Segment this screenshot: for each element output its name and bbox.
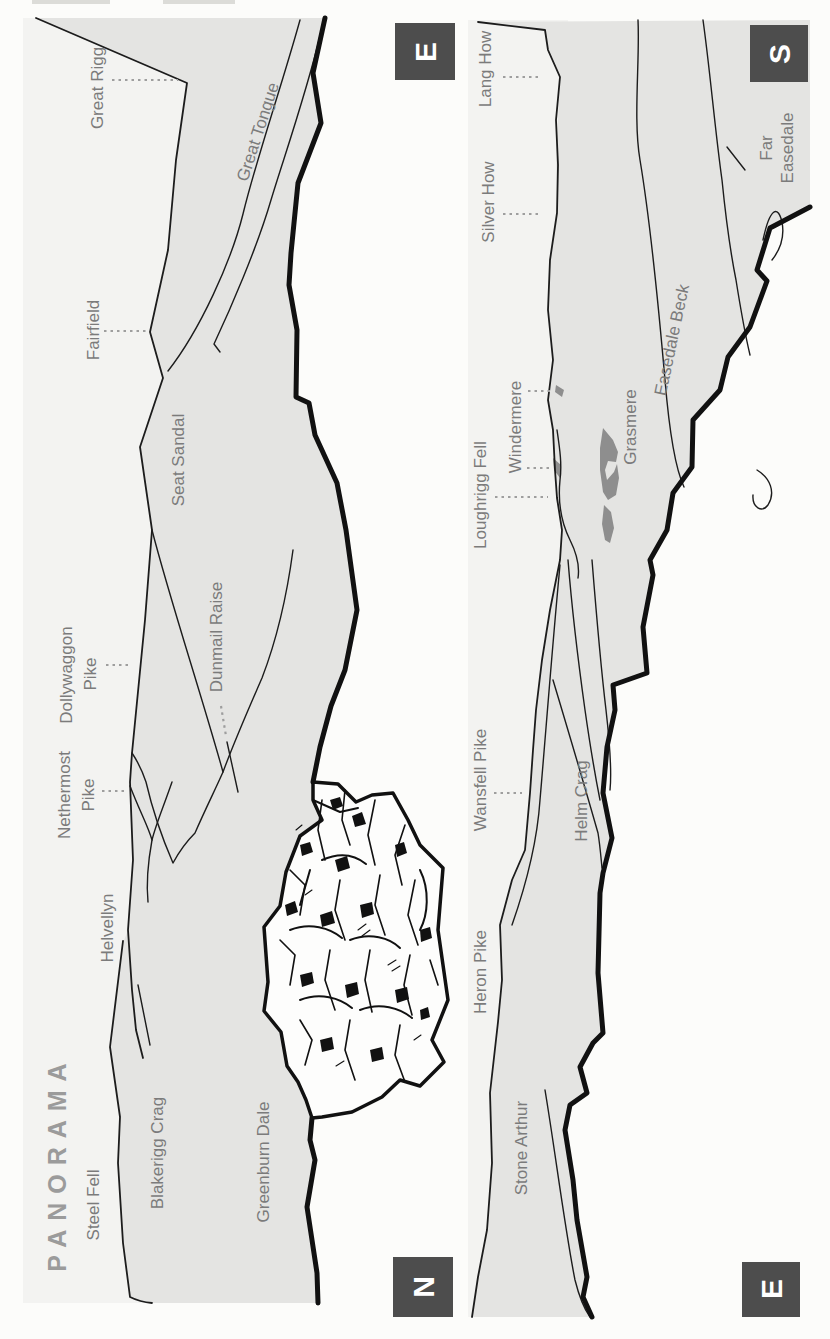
page-title: PANORAMA (43, 1054, 71, 1271)
label-heron-pike: Heron Pike (471, 930, 490, 1014)
compass-letter-e: E (409, 42, 442, 62)
label-loughrigg-fell: Loughrigg Fell (471, 441, 490, 549)
label-dollywaggon-pike-line2: Pike (81, 657, 100, 690)
page-top-crop-mark (32, 0, 110, 4)
label-blakerigg-crag: Blakerigg Crag (148, 1097, 167, 1209)
label-far-easedale-line2: Easedale (778, 113, 797, 184)
compass-badge-east: E (395, 23, 455, 80)
label-wansfell-pike: Wansfell Pike (471, 729, 490, 831)
panel-south-to-east: Lang How Silver How Far Easedale Winderm… (468, 20, 830, 1317)
panel-east-to-north: PANORAMA Great Rigg Great Tongue Fairfie… (23, 18, 455, 1317)
label-nethermost-pike-line1: Nethermost (55, 751, 74, 839)
label-nethermost-pike-line2: Pike (79, 778, 98, 811)
compass-badge-north: N (393, 1257, 453, 1317)
label-great-rigg: Great Rigg (88, 47, 107, 129)
label-helvellyn: Helvellyn (98, 894, 117, 963)
label-seat-sandal: Seat Sandal (169, 414, 188, 507)
page-top-crop-mark (163, 0, 235, 4)
label-steel-fell: Steel Fell (84, 1170, 103, 1241)
compass-letter-e-2: E (755, 1279, 788, 1299)
label-stone-arthur: Stone Arthur (512, 1100, 531, 1195)
label-grasmere: Grasmere (621, 389, 640, 465)
compass-badge-east-2: E (742, 1262, 800, 1317)
label-fairfield: Fairfield (84, 300, 103, 360)
label-lang-how: Lang How (476, 30, 495, 107)
label-far-easedale-line1: Far (757, 135, 776, 161)
label-dunmail-raise: Dunmail Raise (207, 582, 226, 693)
compass-letter-s: S (763, 44, 796, 64)
label-silver-how: Silver How (479, 161, 498, 243)
panorama-page: PANORAMA Great Rigg Great Tongue Fairfie… (0, 0, 830, 1339)
label-greenburn-dale: Greenburn Dale (254, 1102, 273, 1223)
panorama-drawing: PANORAMA Great Rigg Great Tongue Fairfie… (0, 0, 830, 1339)
label-windermere: Windermere (506, 381, 525, 474)
compass-badge-south: S (750, 25, 808, 82)
label-helm-crag: Helm Crag (572, 760, 591, 841)
compass-letter-n: N (407, 1276, 440, 1298)
label-dollywaggon-pike-line1: Dollywaggon (57, 626, 76, 723)
